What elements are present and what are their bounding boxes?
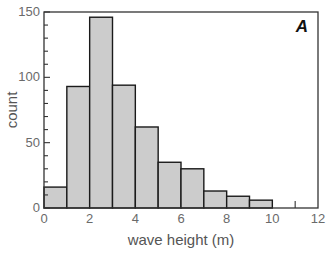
histogram-bar xyxy=(67,86,90,208)
x-tick-label: 6 xyxy=(177,211,184,226)
histogram-bar xyxy=(250,200,273,208)
histogram-bar xyxy=(135,127,158,208)
x-tick-label: 0 xyxy=(40,211,47,226)
y-tick-label: 150 xyxy=(18,4,40,19)
histogram-bars xyxy=(44,17,272,208)
panel-label: A xyxy=(295,17,308,36)
y-axis-tick-labels: 050100150 xyxy=(18,4,40,215)
x-tick-label: 4 xyxy=(132,211,139,226)
histogram-bar xyxy=(113,85,136,208)
histogram-bar xyxy=(227,196,250,208)
x-tick-label: 10 xyxy=(265,211,279,226)
y-axis-title: count xyxy=(3,91,20,129)
x-axis-title: wave height (m) xyxy=(127,231,235,248)
y-axis-ticks xyxy=(44,12,50,208)
histogram-bar xyxy=(158,162,181,208)
y-tick-label: 0 xyxy=(33,200,40,215)
x-tick-label: 8 xyxy=(223,211,230,226)
histogram-chart: 050100150 024681012 wave height (m) coun… xyxy=(0,0,327,257)
y-tick-label: 100 xyxy=(18,69,40,84)
y-tick-label: 50 xyxy=(26,135,40,150)
histogram-bar xyxy=(44,187,67,208)
histogram-bar xyxy=(90,17,113,208)
x-tick-label: 2 xyxy=(86,211,93,226)
x-axis-tick-labels: 024681012 xyxy=(40,211,325,226)
histogram-bar xyxy=(181,169,204,208)
x-tick-label: 12 xyxy=(311,211,325,226)
histogram-bar xyxy=(204,191,227,208)
